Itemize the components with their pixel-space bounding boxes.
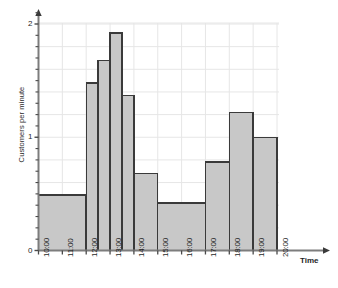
x-tick-label-12:00: 12:00 (90, 237, 99, 256)
bar-18:00-19:00 (229, 112, 253, 250)
x-tick-label-18:00: 18:00 (233, 237, 242, 256)
y-tick-label-2: 2 (17, 19, 33, 28)
bar-19:00-20:00 (253, 137, 277, 250)
x-axis-title: Time (300, 256, 319, 265)
bar-13:30-14:00 (122, 95, 134, 250)
x-tick-label-16:00: 16:00 (185, 237, 194, 256)
bar-12:30-13:00 (98, 60, 110, 250)
histogram-chart: 012 10:0011:0012:0013:0014:0015:0016:001… (0, 0, 338, 288)
x-tick-label-10:00: 10:00 (42, 237, 51, 256)
x-tick-label-15:00: 15:00 (161, 237, 170, 256)
x-tick-label-13:00: 13:00 (114, 237, 123, 256)
x-axis-arrow-icon (323, 247, 330, 253)
y-tick-label-0: 0 (17, 246, 33, 255)
y-axis-title: Customers per minute (17, 55, 26, 195)
bar-13:00-13:30 (110, 33, 122, 250)
x-tick-label-20:00: 20:00 (281, 237, 290, 256)
x-tick-label-14:00: 14:00 (137, 237, 146, 256)
x-tick-label-17:00: 17:00 (209, 237, 218, 256)
x-tick-label-19:00: 19:00 (257, 237, 266, 256)
x-tick-label-11:00: 11:00 (66, 238, 75, 256)
bar-12:00-12:30 (86, 83, 98, 251)
